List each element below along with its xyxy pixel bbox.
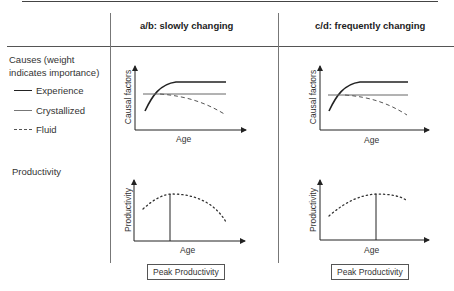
chart-productivity-frequently-changing bbox=[320, 180, 429, 240]
experience-line bbox=[329, 82, 408, 111]
chart-causes-frequently-changing bbox=[320, 66, 429, 130]
chart-causes-slowly-changing bbox=[135, 66, 246, 130]
fluid-line bbox=[160, 94, 226, 115]
charts-canvas bbox=[0, 0, 454, 291]
y-axis-label-causes-ab: Causal factors bbox=[123, 57, 133, 137]
y-axis-label-causes-cd: Causal factors bbox=[308, 57, 318, 137]
fluid-line bbox=[345, 95, 407, 115]
productivity-curve bbox=[329, 194, 406, 216]
peak-productivity-label-cd: Peak Productivity bbox=[331, 264, 409, 280]
experience-line bbox=[145, 82, 226, 111]
y-axis-label-productivity-cd: Productivity bbox=[308, 170, 318, 250]
x-axis-label-causes-ab: Age bbox=[176, 134, 191, 144]
chart-productivity-slowly-changing bbox=[134, 180, 245, 241]
y-axis-label-productivity-ab: Productivity bbox=[123, 170, 133, 250]
peak-productivity-label-ab: Peak Productivity bbox=[147, 264, 225, 280]
x-axis-label-causes-cd: Age bbox=[364, 135, 379, 145]
x-axis-label-productivity-cd: Age bbox=[364, 245, 379, 255]
productivity-curve bbox=[143, 194, 226, 222]
x-axis-label-productivity-ab: Age bbox=[180, 245, 195, 255]
